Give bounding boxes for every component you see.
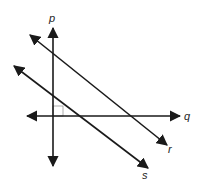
- line-label-s: s: [142, 169, 148, 181]
- right-angle-marker: [53, 106, 63, 116]
- diagram-svg: pqrs: [0, 0, 200, 191]
- line-s: [14, 66, 148, 168]
- geometry-diagram: pqrs: [0, 0, 200, 191]
- line-r: [30, 35, 167, 145]
- line-label-q: q: [184, 110, 191, 122]
- line-label-r: r: [168, 143, 173, 155]
- line-label-p: p: [48, 12, 55, 24]
